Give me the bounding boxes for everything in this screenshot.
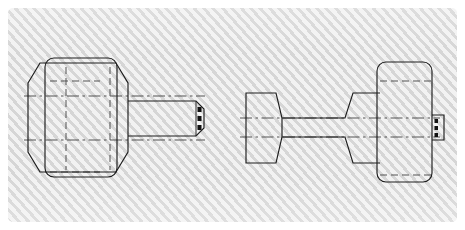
left-view-shaft-step [128,101,204,136]
view-right [240,62,444,182]
right-view-thread-tick-3 [435,133,439,137]
view-left [24,58,205,177]
right-view-flange-rounded-rectangle [377,62,432,182]
right-view-thread-tick-1 [435,119,439,123]
right-view-shank-taper-lower [282,137,380,163]
right-view-thread-tick-2 [435,126,439,130]
left-view-thread-tick-2 [198,116,202,121]
right-view-head-trapezoid [246,93,282,163]
left-view-hex-flange-outline [28,63,128,172]
screenshot-root [0,0,465,230]
drawing-canvas [0,0,465,230]
left-view-thread-tick-1 [198,107,202,112]
right-view-shank-taper-upper [282,93,380,118]
left-view-thread-tick-3 [198,125,202,130]
left-view-body-rounded-rectangle [45,58,117,177]
